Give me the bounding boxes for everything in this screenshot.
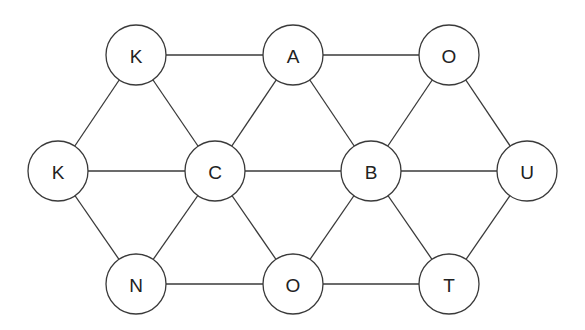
node-label: T [443, 275, 455, 296]
graph-node: O [419, 25, 479, 85]
nodes-group: KAOKCBUNOT [28, 25, 557, 314]
graph-node: K [106, 25, 166, 85]
edges-group [58, 55, 527, 284]
graph-node: B [341, 141, 401, 201]
node-label: C [208, 162, 222, 183]
node-label: K [130, 46, 143, 67]
graph-node: N [106, 254, 166, 314]
graph-node: O [263, 254, 323, 314]
node-label: O [442, 46, 457, 67]
graph-node: A [263, 25, 323, 85]
graph-node: K [28, 141, 88, 201]
node-label: K [52, 162, 65, 183]
node-label: A [287, 46, 300, 67]
node-label: N [129, 275, 143, 296]
graph-diagram: KAOKCBUNOT [0, 0, 585, 330]
graph-node: T [419, 254, 479, 314]
node-label: U [520, 162, 534, 183]
node-label: O [286, 275, 301, 296]
graph-node: C [185, 141, 245, 201]
graph-node: U [497, 141, 557, 201]
node-label: B [365, 162, 378, 183]
